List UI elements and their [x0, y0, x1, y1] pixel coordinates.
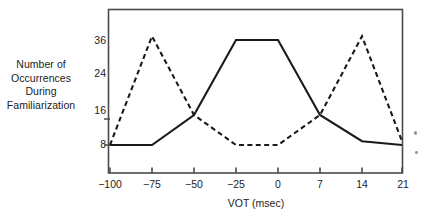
scan-artifact-dot-lower [415, 151, 418, 154]
chart-figure: Number of Occurrences During Familiariza… [0, 0, 436, 218]
plot-frame [109, 10, 403, 174]
plot-area [0, 0, 436, 218]
series-solid-line [110, 40, 402, 145]
series-dashed-line [110, 36, 402, 145]
x-tick-marks [110, 168, 402, 174]
scan-artifact-dot-upper [414, 131, 417, 135]
